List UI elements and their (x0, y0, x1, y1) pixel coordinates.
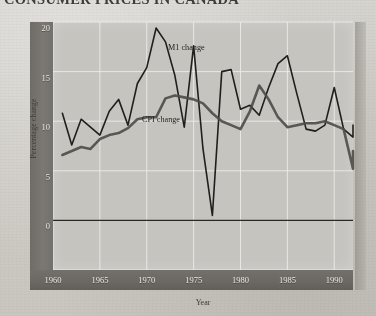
x-tick-label: 1975 (185, 275, 202, 285)
y-tick-label: 0 (46, 221, 50, 231)
x-axis-title: Year (53, 298, 353, 307)
y-tick-label: 20 (42, 23, 51, 33)
right-edge-band (355, 22, 366, 290)
plot-area (53, 22, 353, 270)
series-label-m1: M1 change (168, 43, 205, 52)
chart-lines (53, 22, 353, 270)
chart-figure: 20151050-5 1960196519701975198019851990 … (18, 16, 364, 296)
y-tick-label: 10 (42, 122, 51, 132)
x-tick-label: 1960 (45, 275, 62, 285)
figure-title-strip: CONSUMER PRICES IN CANADA (0, 0, 376, 11)
x-tick-label: 1990 (326, 275, 343, 285)
x-axis-band: 1960196519701975198019851990 (30, 270, 353, 290)
figure-title: CONSUMER PRICES IN CANADA (4, 0, 239, 8)
x-tick-label: 1965 (91, 275, 108, 285)
x-tick-label: 1970 (138, 275, 155, 285)
y-tick-label: 15 (42, 73, 51, 83)
series-label-cpi: CPI change (142, 115, 180, 124)
y-axis-title: Percentage change (29, 84, 38, 174)
y-tick-label: 5 (46, 172, 50, 182)
x-tick-label: 1985 (279, 275, 296, 285)
x-tick-label: 1980 (232, 275, 249, 285)
